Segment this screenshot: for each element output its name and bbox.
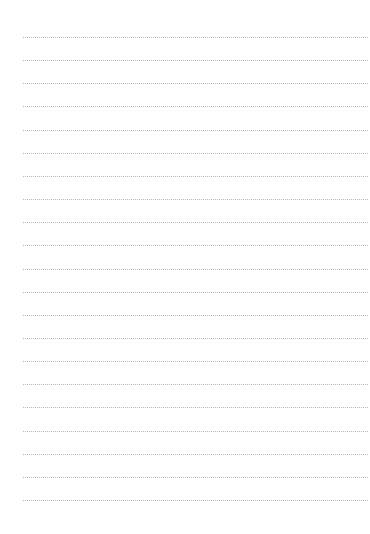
ruled-line — [23, 222, 368, 223]
ruled-line — [23, 454, 368, 455]
ruled-line — [23, 199, 368, 200]
ruled-line — [23, 292, 368, 293]
ruled-line — [23, 500, 368, 501]
ruled-line — [23, 245, 368, 246]
ruled-line — [23, 37, 368, 38]
ruled-line — [23, 361, 368, 362]
ruled-line — [23, 176, 368, 177]
ruled-line — [23, 407, 368, 408]
ruled-line — [23, 431, 368, 432]
ruled-line — [23, 60, 368, 61]
lined-page — [0, 0, 370, 534]
ruled-line — [23, 269, 368, 270]
ruled-line — [23, 315, 368, 316]
ruled-line — [23, 153, 368, 154]
ruled-line — [23, 130, 368, 131]
ruled-line — [23, 477, 368, 478]
ruled-line — [23, 338, 368, 339]
ruled-line — [23, 83, 368, 84]
ruled-line — [23, 384, 368, 385]
ruled-line — [23, 106, 368, 107]
